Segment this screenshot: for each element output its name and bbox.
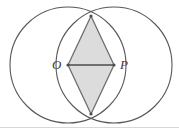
vertex-dot-P xyxy=(112,63,115,66)
point-label-p: P xyxy=(120,58,128,71)
geometry-figure: O P xyxy=(0,0,179,129)
vertex-dot-top xyxy=(89,14,92,17)
point-label-o: O xyxy=(52,58,61,71)
geometry-canvas xyxy=(0,0,179,129)
vertex-dot-O xyxy=(66,63,69,66)
vertex-dot-bottom xyxy=(89,112,92,115)
